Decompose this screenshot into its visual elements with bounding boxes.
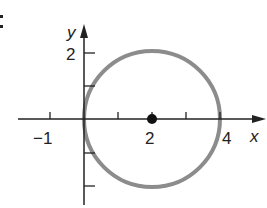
y-axis-arrow-icon bbox=[80, 24, 88, 38]
circle-graph: −1 2 4 x 2 y bbox=[0, 0, 267, 208]
x-axis-label: x bbox=[249, 127, 259, 146]
x-ticks bbox=[50, 112, 220, 119]
y-tick-label-2: 2 bbox=[66, 45, 75, 64]
colon-dot-bottom bbox=[0, 25, 3, 28]
center-point bbox=[147, 114, 157, 124]
x-tick-label-neg1: −1 bbox=[33, 129, 52, 148]
x-tick-label-2: 2 bbox=[145, 129, 154, 148]
y-axis-label: y bbox=[66, 23, 77, 42]
colon-dot-top bbox=[0, 15, 3, 18]
x-tick-label-4: 4 bbox=[222, 129, 231, 148]
x-axis-arrow-icon bbox=[252, 115, 266, 123]
